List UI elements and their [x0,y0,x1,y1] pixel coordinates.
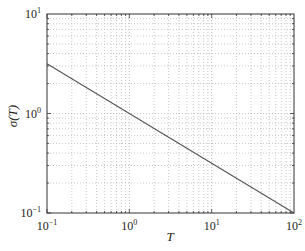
loglog-chart: 10−1100101102 10−1100101 T σ(T) [0,0,305,251]
x-axis-label: T [166,229,174,244]
y-tick-labels: 10−1100101 [20,6,41,220]
y-tick-label: 101 [25,6,41,21]
y-axis-label: σ(T) [5,105,20,127]
y-tick-label: 100 [25,106,41,121]
grid-lines [47,14,294,213]
x-tick-label: 10−1 [37,218,58,233]
y-tick-label: 10−1 [20,205,41,220]
sigma-curve [47,64,294,213]
x-tick-label: 100 [121,218,137,233]
x-tick-label: 102 [286,218,302,233]
x-tick-label: 101 [204,218,220,233]
